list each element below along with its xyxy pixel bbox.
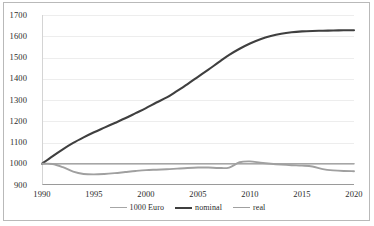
y-axis-tick-label: 1200 xyxy=(10,116,27,126)
y-axis-tick-label: 1500 xyxy=(10,52,27,62)
legend-swatch-line-icon xyxy=(233,207,250,208)
y-axis-tick-label: 1700 xyxy=(10,10,27,20)
legend-swatch-line-icon xyxy=(175,207,192,209)
legend-label: 1000 Euro xyxy=(130,203,164,212)
x-axis-tick-label: 1995 xyxy=(85,189,102,199)
y-axis-tick-label: 1100 xyxy=(10,137,27,147)
legend-label: real xyxy=(253,203,265,212)
chart-container: 17001600150014001300120011001000900 1990… xyxy=(0,0,374,226)
y-axis-tick-label: 1400 xyxy=(10,73,27,83)
legend-label: nominal xyxy=(195,203,222,212)
plot-area xyxy=(42,15,354,185)
y-axis-tick-label: 900 xyxy=(14,180,27,190)
y-axis-tick-label: 1300 xyxy=(10,95,27,105)
legend-swatch-line-icon xyxy=(110,207,127,208)
legend-entry-real[interactable]: real xyxy=(233,203,265,212)
x-axis-tick-label: 2005 xyxy=(189,189,206,199)
y-axis-tick-label: 1000 xyxy=(10,158,27,168)
x-axis-tick-label: 1990 xyxy=(33,189,50,199)
x-axis-tick-label: 2000 xyxy=(137,189,154,199)
y-axis-tick-label: 1600 xyxy=(10,31,27,41)
series-lines xyxy=(42,15,354,185)
x-axis-tick-label: 2010 xyxy=(241,189,258,199)
legend-entry-1000-euro[interactable]: 1000 Euro xyxy=(110,203,164,212)
series-line-nominal xyxy=(42,30,354,163)
legend-entry-nominal[interactable]: nominal xyxy=(175,203,222,212)
chart-outer-border: 17001600150014001300120011001000900 1990… xyxy=(3,2,370,221)
x-axis-tick-label: 2015 xyxy=(293,189,310,199)
chart-legend: 1000 Euronominalreal xyxy=(4,203,371,212)
x-axis-tick-label: 2020 xyxy=(345,189,362,199)
